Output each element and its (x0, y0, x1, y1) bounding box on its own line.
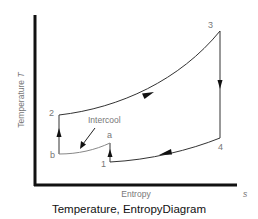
y-axis-label-group: Temperature T (16, 72, 26, 128)
path-4-1 (110, 138, 220, 162)
ts-diagram: 2 b a 1 3 4 Intercool Temperature T Entr… (0, 0, 258, 219)
x-axis-symbol: s (243, 189, 248, 199)
diagram-title: Temperature, EntropyDiagram (0, 203, 258, 215)
arrow-up-icon (108, 149, 113, 157)
arrow-right-icon (142, 92, 154, 99)
point-label-b: b (50, 150, 55, 160)
point-label-1: 1 (101, 159, 106, 169)
path-2-3 (59, 31, 220, 115)
arrow-left-icon (159, 149, 172, 155)
point-label-2: 2 (49, 108, 54, 118)
y-axis-label: Temperature T (16, 72, 26, 128)
intercool-pointer (83, 128, 95, 144)
arrow-pointer-icon (80, 141, 86, 149)
point-label-3: 3 (208, 20, 213, 30)
x-axis-label: Entropy (121, 189, 151, 199)
arrow-down-icon (218, 80, 223, 89)
point-label-4: 4 (218, 142, 223, 152)
intercool-label: Intercool (88, 115, 121, 125)
point-label-a: a (107, 130, 112, 140)
arrow-up-icon (57, 128, 62, 137)
